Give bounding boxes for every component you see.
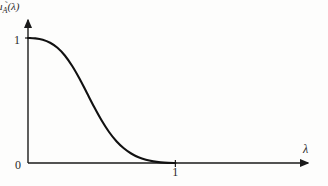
subscript-a-tilde: ̃A <box>3 7 8 15</box>
membership-function-figure: μ̃A(λ) 1 0 1 λ <box>0 0 328 186</box>
tilde-accent: ̃ <box>3 1 8 9</box>
lambda-argument: (λ) <box>7 0 19 12</box>
x-tick-one-label: 1 <box>172 166 178 178</box>
plot-canvas <box>0 0 328 186</box>
y-axis-caption: μ̃A(λ) <box>0 1 20 15</box>
membership-curve <box>28 38 175 163</box>
origin-label: 0 <box>15 159 21 171</box>
y-tick-one-label: 1 <box>14 34 20 46</box>
x-axis-caption: λ <box>303 143 308 155</box>
